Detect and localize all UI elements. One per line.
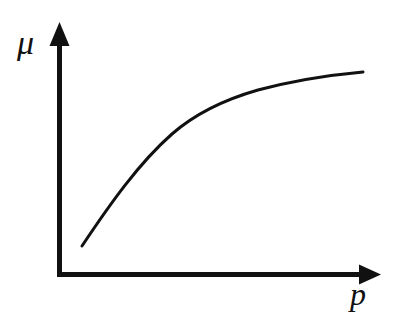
x-axis-label: p — [350, 278, 366, 310]
curve-series-mu-of-p — [82, 72, 363, 246]
y-axis-label: μ — [17, 26, 34, 60]
figure-container: μ p — [0, 0, 405, 313]
y-axis-arrowhead-icon — [50, 22, 70, 46]
axis-diagram-svg — [0, 0, 405, 313]
